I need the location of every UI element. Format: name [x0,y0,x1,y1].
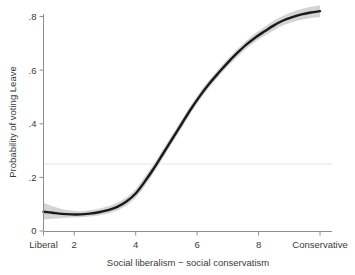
y-tick-label: 0 [31,225,36,236]
x-tick-label: 6 [194,239,199,250]
y-tick-label: .4 [29,118,37,129]
x-tick-label: 2 [72,239,77,250]
y-tick-label: .6 [29,65,37,76]
y-axis-title: Probability of voting Leave [7,66,18,177]
x-tick-label: Liberal [29,239,58,250]
chart-background [0,0,355,275]
y-tick-label: .2 [29,172,37,183]
x-axis-title: Social liberalism − social conservatism [107,257,269,268]
y-tick-label: .8 [29,11,37,22]
line-chart: .8.6.4.20 Liberal2468Conservative Social… [0,0,355,275]
x-tick-label: 8 [256,239,261,250]
x-tick-label: 4 [133,239,138,250]
x-tick-label: Conservative [292,239,347,250]
chart-figure: .8.6.4.20 Liberal2468Conservative Social… [0,0,355,275]
